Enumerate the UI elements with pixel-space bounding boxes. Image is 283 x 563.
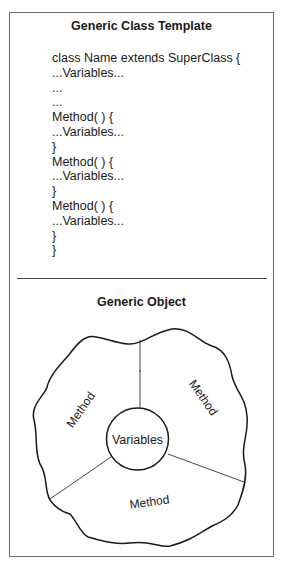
method-label-bottom: Method (129, 492, 171, 511)
spoke-right (168, 454, 244, 482)
method-label-upper-right: Method (186, 377, 220, 418)
generic-object-diagram: Variables Method Method Method (0, 0, 283, 563)
method-label-upper-left: Method (64, 389, 98, 430)
spoke-left (50, 457, 111, 499)
variables-label: Variables (112, 433, 163, 447)
